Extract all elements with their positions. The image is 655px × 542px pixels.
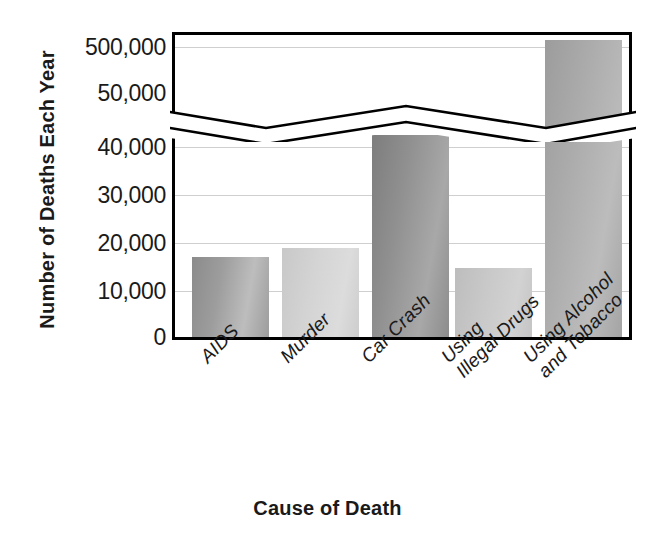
x-axis-title: Cause of Death [0,497,655,520]
plot-area-upper-frame [172,32,632,116]
bar-chart: Number of Deaths Each Year 500,000 50,00… [0,0,655,542]
